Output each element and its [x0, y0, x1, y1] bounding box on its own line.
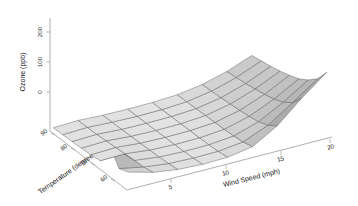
z-tick-100: 100: [36, 56, 43, 67]
z-axis-title: Ozone (ppb): [19, 53, 27, 92]
surface-plot: 200 100 0 Ozone (ppb) 90 80 70 60 Temper…: [0, 0, 358, 206]
z-tick-0: 0: [36, 90, 43, 94]
z-tick-200: 200: [36, 26, 43, 37]
